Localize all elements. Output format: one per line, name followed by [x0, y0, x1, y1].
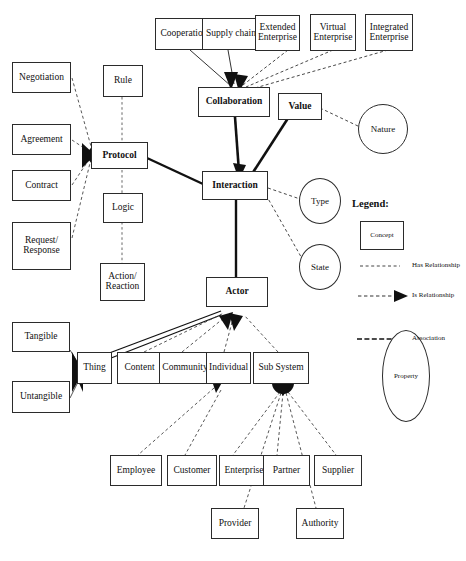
node-tangible[interactable]: Tangible	[12, 322, 70, 352]
node-negotiation[interactable]: Negotiation	[12, 62, 71, 93]
node-customer[interactable]: Customer	[167, 455, 217, 486]
node-contract[interactable]: Contract	[12, 170, 71, 201]
node-value[interactable]: Value	[278, 93, 322, 120]
node-employee[interactable]: Employee	[110, 455, 162, 486]
node-community[interactable]: Community	[159, 352, 211, 384]
node-supplier[interactable]: Supplier	[314, 455, 362, 486]
node-virtual-enterprise[interactable]: Virtual Enterprise	[310, 14, 356, 51]
node-collaboration[interactable]: Collaboration	[198, 87, 270, 117]
node-protocol[interactable]: Protocol	[91, 142, 148, 169]
node-extended-enterprise[interactable]: Extended Enterprise	[255, 15, 300, 51]
legend-has-relationship-label: Has Relationship	[412, 261, 460, 269]
node-sub-system[interactable]: Sub System	[253, 352, 309, 384]
node-provider[interactable]: Provider	[211, 508, 259, 539]
node-thing[interactable]: Thing	[77, 352, 112, 384]
node-untangible[interactable]: Untangible	[12, 381, 70, 413]
node-request-response[interactable]: Request/ Response	[12, 222, 71, 270]
node-partner[interactable]: Partner	[263, 455, 310, 486]
node-actor[interactable]: Actor	[206, 277, 268, 307]
node-supply-chain[interactable]: Supply chain	[202, 18, 260, 50]
node-action-reaction[interactable]: Action/ Reaction	[100, 263, 145, 301]
node-individual[interactable]: Individual	[206, 352, 251, 384]
node-interaction[interactable]: Interaction	[202, 171, 268, 200]
node-enterprise[interactable]: Enterprise	[219, 455, 269, 486]
node-logic[interactable]: Logic	[103, 193, 143, 223]
property-type[interactable]: Type	[299, 178, 341, 224]
diagram-canvas: Cooperation Supply chain Extended Enterp…	[0, 0, 466, 561]
legend-title: Legend:	[352, 198, 389, 209]
node-content[interactable]: Content	[117, 352, 162, 384]
property-state[interactable]: State	[299, 244, 341, 290]
legend-concept-box: Concept	[360, 221, 404, 250]
legend-property-ellipse: Property	[382, 330, 430, 422]
node-rule[interactable]: Rule	[103, 65, 143, 97]
node-agreement[interactable]: Agreement	[12, 124, 71, 155]
node-integrated-enterprise[interactable]: Integrated Enterprise	[365, 14, 413, 51]
legend-is-relationship-arrowhead	[394, 290, 408, 302]
legend-association-label: Association	[412, 334, 445, 342]
property-nature[interactable]: Nature	[358, 104, 408, 154]
legend-is-relationship-label: Is Relationship	[412, 291, 454, 299]
node-authority[interactable]: Authority	[296, 508, 344, 539]
